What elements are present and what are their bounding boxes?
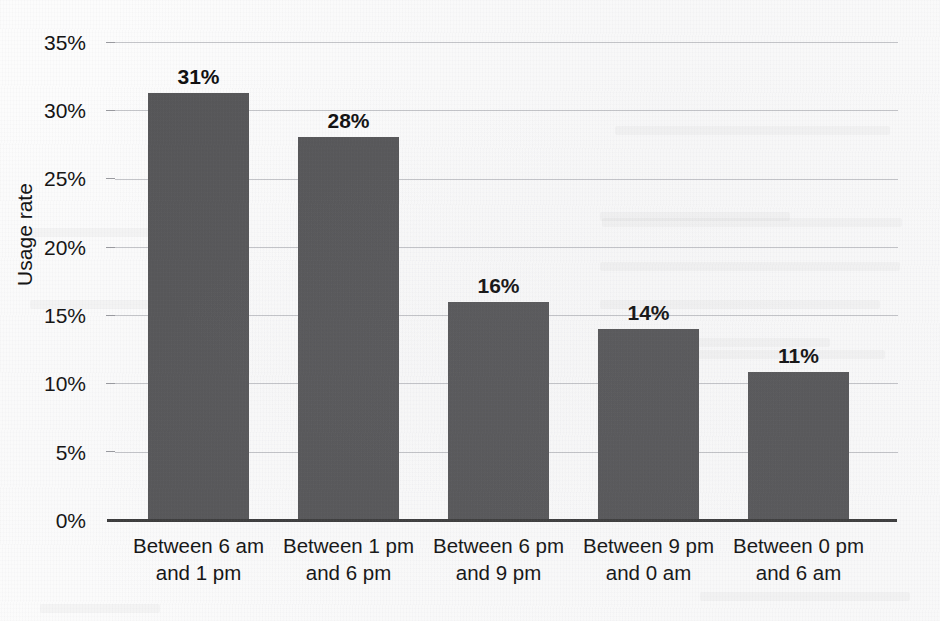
paper-bleed-through-mark (40, 604, 160, 613)
bar-value-label: 31% (148, 66, 249, 87)
y-tick-mark (106, 247, 115, 248)
x-category-label-line2: and 1 pm (118, 559, 279, 586)
y-tick-mark (106, 42, 115, 43)
y-tick-label-35: 35% (16, 32, 86, 53)
y-tick-mark (106, 383, 115, 384)
x-category-label-line1: Between 6 am (133, 534, 264, 557)
x-category-label: Between 0 pm and 6 am (718, 532, 879, 586)
y-tick-mark (106, 178, 115, 179)
y-tick-label-0: 0% (16, 510, 86, 531)
bar[interactable] (598, 329, 699, 520)
x-category-label-line2: and 0 am (568, 559, 729, 586)
x-category-label: Between 1 pm and 6 pm (268, 532, 429, 586)
bar-value-label: 16% (448, 275, 549, 296)
bar[interactable] (448, 302, 549, 520)
x-category-label-line1: Between 0 pm (733, 534, 864, 557)
y-tick-label-10: 10% (16, 373, 86, 394)
bar-value-label: 11% (748, 345, 849, 366)
bar[interactable] (748, 372, 849, 520)
bar-value-label: 14% (598, 302, 699, 323)
gridline-35 (115, 42, 898, 43)
y-tick-mark (106, 315, 115, 316)
bar[interactable] (148, 93, 249, 520)
y-tick-label-5: 5% (16, 442, 86, 463)
x-category-label-line2: and 6 am (718, 559, 879, 586)
x-category-label-line2: and 6 pm (268, 559, 429, 586)
x-category-label-line1: Between 6 pm (433, 534, 564, 557)
y-tick-mark (106, 451, 115, 452)
x-category-label: Between 6 pm and 9 pm (418, 532, 579, 586)
x-category-label-line1: Between 9 pm (583, 534, 714, 557)
y-tick-label-20: 20% (16, 237, 86, 258)
y-tick-label-30: 30% (16, 100, 86, 121)
bar-chart-figure: Usage rate 35% 30% 25% 20% 15% 10% 5% 0%… (0, 0, 940, 621)
x-axis-line (107, 519, 897, 522)
x-category-label: Between 9 pm and 0 am (568, 532, 729, 586)
bar-value-label: 28% (298, 110, 399, 131)
paper-bleed-through-mark (700, 592, 910, 601)
bar[interactable] (298, 137, 399, 520)
x-category-label-line1: Between 1 pm (283, 534, 414, 557)
x-category-label: Between 6 am and 1 pm (118, 532, 279, 586)
y-tick-mark (106, 110, 115, 111)
y-tick-label-25: 25% (16, 168, 86, 189)
y-tick-label-15: 15% (16, 305, 86, 326)
x-category-label-line2: and 9 pm (418, 559, 579, 586)
